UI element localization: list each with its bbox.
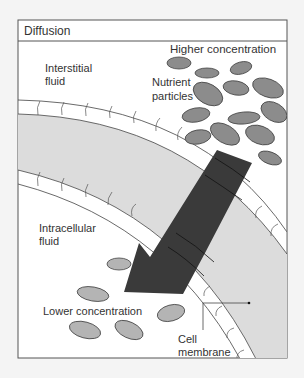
figure-title: Diffusion xyxy=(24,24,70,38)
label-interstitial-fluid-1: Interstitial xyxy=(45,62,92,75)
label-interstitial-fluid-2: fluid xyxy=(45,75,65,88)
label-intracellular-fluid-1: Intracellular xyxy=(39,222,96,235)
label-lower-concentration: Lower concentration xyxy=(43,305,142,318)
label-cell-membrane-2: membrane xyxy=(178,346,231,359)
label-cell-membrane-1: Cell xyxy=(178,333,197,346)
label-higher-concentration: Higher concentration xyxy=(170,43,276,56)
label-intracellular-fluid-2: fluid xyxy=(39,235,59,248)
diffusion-diagram: Diffusion Higher concentration Interstit… xyxy=(0,0,304,378)
label-nutrient-particles-1: Nutrient xyxy=(152,76,191,89)
label-nutrient-particles-2: particles xyxy=(152,90,193,103)
